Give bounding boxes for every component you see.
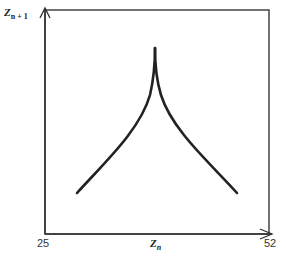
x-axis-label: Zn	[150, 237, 161, 252]
x-tick-max: 52	[264, 237, 276, 249]
chart-canvas	[0, 0, 286, 258]
return-map-curve-right	[155, 48, 237, 193]
plot-frame	[45, 10, 269, 234]
return-map-curve-left	[77, 48, 155, 193]
x-tick-min: 25	[37, 237, 49, 249]
y-axis-label: Zn + 1	[4, 6, 28, 21]
